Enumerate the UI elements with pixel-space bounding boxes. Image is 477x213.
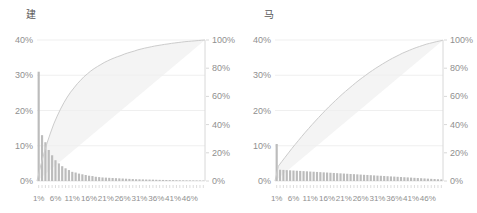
frequency-bar	[417, 178, 419, 181]
frequency-bar	[323, 172, 325, 181]
y-axis-right-tick-label: 60%	[450, 91, 468, 101]
frequency-bar	[420, 178, 422, 181]
frequency-bar	[410, 178, 412, 181]
frequency-bar	[64, 168, 66, 181]
frequency-bar	[58, 163, 60, 181]
frequency-bar	[319, 172, 321, 181]
frequency-bar	[356, 174, 358, 181]
chart-left: 建 0%10%20%30%40%0%20%40%60%80%100%1%6%11…	[0, 0, 238, 213]
frequency-bar	[339, 173, 341, 181]
frequency-bar	[68, 170, 70, 181]
frequency-bar	[75, 173, 77, 181]
frequency-bar	[353, 174, 355, 181]
frequency-bar	[299, 171, 301, 181]
frequency-bar	[175, 180, 177, 181]
frequency-bar	[360, 175, 362, 181]
y-axis-right-tick-label: 0%	[212, 176, 225, 186]
frequency-bar	[437, 179, 439, 181]
frequency-bar	[343, 174, 345, 181]
y-axis-left-tick-label: 40%	[0, 35, 33, 45]
frequency-bar	[373, 175, 375, 181]
y-axis-left-tick-label: 20%	[0, 106, 33, 116]
frequency-bar	[390, 176, 392, 181]
frequency-bar	[148, 180, 150, 181]
frequency-bar	[336, 173, 338, 181]
frequency-bar	[61, 166, 63, 181]
frequency-bar	[169, 180, 171, 181]
frequency-bar	[279, 170, 281, 181]
frequency-bar	[306, 171, 308, 181]
frequency-bar	[309, 172, 311, 181]
frequency-bar	[125, 179, 127, 181]
frequency-bar	[302, 171, 304, 181]
frequency-bar	[135, 179, 137, 181]
frequency-bar	[98, 177, 100, 181]
frequency-bar	[81, 174, 83, 181]
y-axis-right-tick-label: 80%	[450, 63, 468, 73]
x-axis-tick-label: 46%	[177, 194, 203, 203]
frequency-bar	[182, 180, 184, 181]
x-axis-tick-label: 46%	[415, 194, 441, 203]
frequency-bar	[122, 179, 124, 181]
frequency-bar	[296, 171, 298, 181]
frequency-bar	[316, 172, 318, 181]
frequency-bar	[91, 176, 93, 181]
frequency-bar	[142, 179, 144, 181]
frequency-bar	[350, 174, 352, 181]
frequency-bar	[145, 180, 147, 181]
frequency-bar	[289, 170, 291, 181]
frequency-bar	[172, 180, 174, 181]
frequency-bar	[292, 171, 294, 181]
frequency-bar	[346, 174, 348, 181]
frequency-bar	[162, 180, 164, 181]
y-axis-right-tick-label: 0%	[450, 176, 463, 186]
frequency-bar	[105, 178, 107, 181]
chart-plot	[0, 0, 238, 213]
frequency-bar	[430, 179, 432, 181]
frequency-bar	[38, 72, 40, 181]
frequency-bar	[192, 180, 194, 181]
frequency-bar	[333, 173, 335, 181]
frequency-bar	[71, 172, 73, 181]
frequency-bar	[85, 175, 87, 181]
frequency-bar	[152, 180, 154, 181]
frequency-bar	[138, 179, 140, 181]
frequency-bar	[434, 179, 436, 181]
frequency-bar	[286, 170, 288, 181]
frequency-bar	[376, 176, 378, 181]
frequency-bar	[427, 179, 429, 181]
frequency-bar	[51, 155, 53, 181]
frequency-bar	[393, 177, 395, 181]
y-axis-right-tick-label: 60%	[212, 91, 230, 101]
frequency-bar	[118, 178, 120, 181]
chart-plot	[238, 0, 476, 213]
frequency-bar	[397, 177, 399, 181]
frequency-bar	[128, 179, 130, 181]
frequency-bar	[48, 150, 50, 181]
y-axis-right-tick-label: 20%	[450, 148, 468, 158]
dual-distribution-charts: 建 0%10%20%30%40%0%20%40%60%80%100%1%6%11…	[0, 0, 477, 213]
chart-right: 马 0%10%20%30%40%0%20%40%60%80%100%1%6%11…	[238, 0, 476, 213]
frequency-bar	[423, 178, 425, 181]
y-axis-right-tick-label: 100%	[450, 35, 473, 45]
frequency-bar	[95, 177, 97, 181]
frequency-bar	[400, 177, 402, 181]
frequency-bar	[363, 175, 365, 181]
frequency-bar	[179, 180, 181, 181]
frequency-bar	[54, 160, 56, 181]
frequency-bar	[326, 173, 328, 181]
frequency-bar	[155, 180, 157, 181]
y-axis-left-tick-label: 30%	[0, 70, 33, 80]
y-axis-left-tick-label: 0%	[0, 176, 33, 186]
frequency-bar	[185, 180, 187, 181]
frequency-bar	[383, 176, 385, 181]
frequency-bar	[115, 178, 117, 181]
frequency-bar	[403, 177, 405, 181]
frequency-bar	[282, 170, 284, 181]
frequency-bar	[380, 176, 382, 181]
frequency-bar	[108, 178, 110, 181]
frequency-bar	[112, 178, 114, 181]
frequency-bar	[196, 180, 198, 181]
y-axis-left-tick-label: 0%	[238, 176, 271, 186]
y-axis-right-tick-label: 80%	[212, 63, 230, 73]
